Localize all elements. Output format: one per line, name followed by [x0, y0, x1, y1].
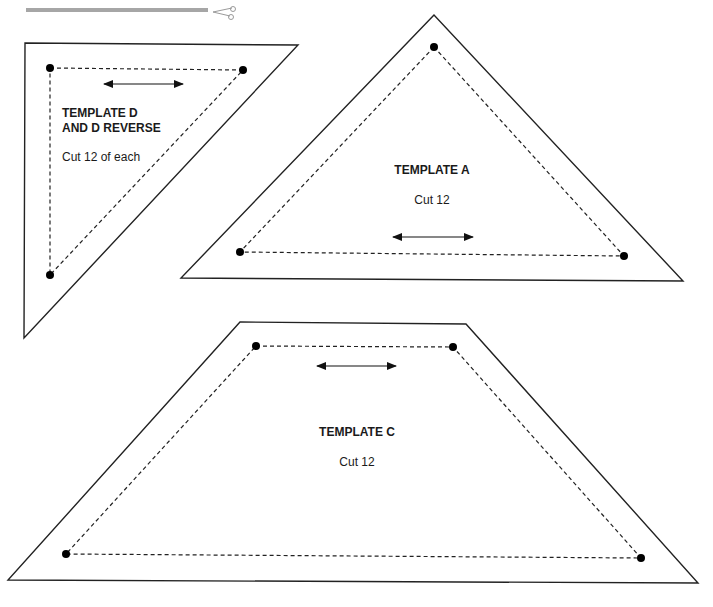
scissors-icon — [213, 7, 236, 20]
template-a-shape — [181, 15, 683, 281]
template-c-instruction: Cut 12 — [339, 455, 374, 469]
template-d-title-line2: AND D REVERSE — [62, 121, 161, 135]
template-d-title-line1: TEMPLATE D — [62, 106, 138, 120]
template-a-instruction: Cut 12 — [414, 193, 449, 207]
template-a-title: TEMPLATE A — [394, 163, 469, 177]
template-d-shape — [24, 43, 298, 338]
pattern-sheet — [0, 0, 713, 607]
template-c-shape — [8, 322, 698, 583]
template-c-title: TEMPLATE C — [319, 425, 395, 439]
template-d-instruction: Cut 12 of each — [62, 150, 140, 164]
